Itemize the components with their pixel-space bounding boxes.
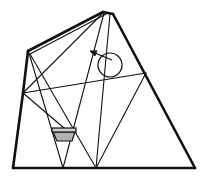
figure-root <box>0 0 203 180</box>
basket-rim <box>52 128 76 132</box>
basket-body <box>53 132 75 141</box>
balloon-line-diagram <box>0 0 203 180</box>
figure-background <box>0 0 203 180</box>
balloon-basket-group <box>52 128 76 141</box>
